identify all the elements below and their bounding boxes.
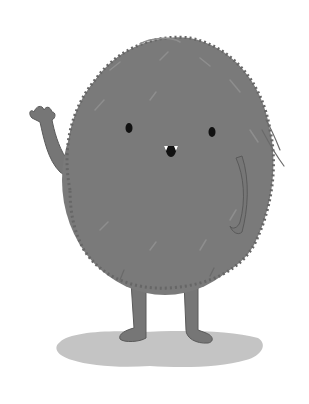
left-eye <box>126 123 133 133</box>
right-eye <box>209 127 216 137</box>
ground-shadow <box>56 331 262 367</box>
monster-illustration <box>0 0 309 404</box>
furry-body <box>62 37 284 295</box>
